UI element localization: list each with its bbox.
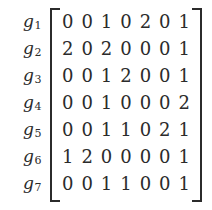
row-label: g4	[0, 89, 48, 116]
matrix-cell: 0	[77, 94, 96, 112]
matrix-cell: 1	[175, 13, 194, 31]
row-label: g1	[0, 8, 48, 35]
row-label-subscript: 5	[35, 128, 42, 139]
matrix-row: 0 0 1 0 0 0 2	[58, 89, 194, 116]
matrix-cell: 0	[116, 13, 135, 31]
row-label: g7	[0, 170, 48, 197]
row-label-subscript: 1	[35, 20, 42, 31]
matrix-row: 0 0 1 1 0 2 1	[58, 116, 194, 143]
row-label: g6	[0, 143, 48, 170]
matrix-cell: 0	[116, 148, 135, 166]
matrix-cell: 1	[116, 121, 135, 139]
matrix-cell: 2	[175, 94, 194, 112]
matrix-cell: 1	[175, 121, 194, 139]
matrix-cell: 1	[97, 94, 116, 112]
matrix-cell: 0	[136, 94, 155, 112]
matrix-cell: 0	[155, 40, 174, 58]
matrix-cell: 0	[58, 121, 77, 139]
row-label-subscript: 2	[35, 47, 42, 58]
matrix-cell: 1	[97, 175, 116, 193]
matrix-cell: 0	[136, 67, 155, 85]
matrix-cell: 0	[58, 67, 77, 85]
matrix-cell: 0	[136, 40, 155, 58]
matrix-cell: 0	[116, 40, 135, 58]
matrix-cell: 0	[155, 13, 174, 31]
matrix-cell: 1	[97, 121, 116, 139]
row-label-subscript: 3	[35, 74, 42, 85]
row-label-symbol: g	[23, 94, 34, 111]
matrix-cell: 2	[116, 67, 135, 85]
row-label: g5	[0, 116, 48, 143]
matrix-cell: 0	[155, 94, 174, 112]
matrix-cell: 0	[77, 175, 96, 193]
matrix-cell: 0	[77, 121, 96, 139]
matrix-row: 0 0 1 1 0 0 1	[58, 170, 194, 197]
matrix-row: 0 0 1 0 2 0 1	[58, 8, 194, 35]
row-label-subscript: 7	[35, 182, 42, 193]
row-label: g2	[0, 35, 48, 62]
row-label-subscript: 4	[35, 101, 42, 112]
matrix-cell: 0	[136, 148, 155, 166]
row-label-subscript: 6	[35, 155, 42, 166]
matrix-cell: 1	[175, 175, 194, 193]
matrix-cell: 0	[116, 94, 135, 112]
row-label-symbol: g	[23, 175, 34, 192]
matrix-cell: 0	[155, 175, 174, 193]
matrix-cell: 0	[77, 67, 96, 85]
row-label-column: g1 g2 g3 g4 g5 g6 g7	[0, 8, 48, 202]
matrix-row: 0 0 1 2 0 0 1	[58, 62, 194, 89]
matrix-cell: 0	[136, 121, 155, 139]
matrix-cell: 2	[77, 148, 96, 166]
matrix-cell: 0	[58, 94, 77, 112]
matrix-cell: 0	[77, 13, 96, 31]
row-label-symbol: g	[23, 67, 34, 84]
matrix-cell: 0	[77, 40, 96, 58]
matrix-cell: 2	[97, 40, 116, 58]
matrix-cell: 2	[136, 13, 155, 31]
matrix-cell: 1	[116, 175, 135, 193]
row-label-symbol: g	[23, 40, 34, 57]
matrix-cell: 2	[155, 121, 174, 139]
matrix-body: 0 0 1 0 2 0 1 2 0 2 0 0 0 1 0 0 1 2	[50, 8, 202, 202]
matrix-figure: g1 g2 g3 g4 g5 g6 g7 0 0 1 0	[0, 0, 212, 210]
row-label-symbol: g	[23, 13, 34, 30]
matrix-cell: 1	[175, 148, 194, 166]
matrix-cell: 0	[155, 148, 174, 166]
matrix-row: 2 0 2 0 0 0 1	[58, 35, 194, 62]
matrix-cell: 0	[155, 67, 174, 85]
matrix-cell: 1	[97, 13, 116, 31]
matrix-cell: 0	[58, 13, 77, 31]
row-label-symbol: g	[23, 148, 34, 165]
matrix-rows: 0 0 1 0 2 0 1 2 0 2 0 0 0 1 0 0 1 2	[58, 8, 194, 202]
matrix-cell: 0	[97, 148, 116, 166]
matrix-cell: 1	[58, 148, 77, 166]
matrix-cell: 2	[58, 40, 77, 58]
matrix-cell: 0	[58, 175, 77, 193]
row-label: g3	[0, 62, 48, 89]
row-label-symbol: g	[23, 121, 34, 138]
matrix-cell: 0	[136, 175, 155, 193]
matrix-cell: 1	[175, 40, 194, 58]
matrix-cell: 1	[97, 67, 116, 85]
matrix-row: 1 2 0 0 0 0 1	[58, 143, 194, 170]
matrix-cell: 1	[175, 67, 194, 85]
